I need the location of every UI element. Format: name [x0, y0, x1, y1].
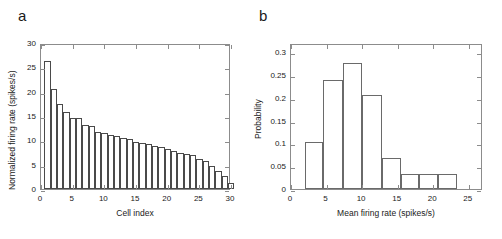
x-tick-label: 20 — [162, 195, 171, 203]
y-tick-mark — [291, 123, 295, 124]
x-tick-mark — [398, 45, 399, 49]
y-tick-mark — [477, 54, 481, 55]
x-tick-mark — [168, 45, 169, 49]
x-tick-label: 25 — [463, 195, 472, 203]
x-tick-mark — [199, 45, 200, 49]
y-tick-label: 15 — [16, 113, 36, 121]
y-tick-mark — [291, 191, 295, 192]
figure-container: a Normalized firing rate (spikes/s) Cell… — [0, 0, 502, 239]
y-tick-mark — [477, 168, 481, 169]
y-tick-mark — [41, 167, 45, 168]
x-tick-mark — [398, 185, 399, 189]
y-tick-label: 0 — [16, 186, 36, 194]
panel-a: a Normalized firing rate (spikes/s) Cell… — [0, 0, 251, 239]
x-tick-label: 30 — [226, 195, 235, 203]
y-tick-mark — [291, 145, 295, 146]
y-tick-mark — [41, 94, 45, 95]
x-tick-label: 15 — [392, 195, 401, 203]
y-tick-mark — [291, 100, 295, 101]
x-tick-mark — [291, 185, 292, 189]
panel-a-plot-area — [40, 44, 230, 190]
x-tick-mark — [168, 185, 169, 189]
y-tick-mark — [477, 123, 481, 124]
x-tick-label: 0 — [288, 195, 292, 203]
x-tick-label: 15 — [131, 195, 140, 203]
x-tick-mark — [104, 45, 105, 49]
x-tick-mark — [469, 45, 470, 49]
y-tick-mark — [291, 168, 295, 169]
x-tick-mark — [362, 45, 363, 49]
y-tick-mark — [225, 191, 229, 192]
x-tick-mark — [327, 185, 328, 189]
y-tick-mark — [477, 77, 481, 78]
x-tick-mark — [41, 185, 42, 189]
y-tick-mark — [477, 191, 481, 192]
y-tick-label: 0.25 — [262, 72, 286, 80]
y-tick-mark — [225, 118, 229, 119]
y-tick-mark — [225, 142, 229, 143]
panel-b: b Probability Mean firing rate (spikes/s… — [251, 0, 502, 239]
panel-b-plot-area — [290, 44, 482, 190]
y-tick-label: 0.1 — [262, 140, 286, 148]
y-tick-mark — [225, 167, 229, 168]
y-tick-mark — [41, 191, 45, 192]
x-tick-label: 5 — [323, 195, 327, 203]
y-tick-label: 30 — [16, 40, 36, 48]
x-tick-mark — [231, 185, 232, 189]
panel-a-ticks — [41, 45, 229, 189]
x-tick-mark — [136, 185, 137, 189]
y-tick-mark — [477, 145, 481, 146]
y-tick-mark — [291, 54, 295, 55]
x-tick-mark — [41, 45, 42, 49]
x-tick-mark — [291, 45, 292, 49]
x-tick-label: 0 — [38, 195, 42, 203]
panel-a-x-axis-title: Cell index — [40, 209, 230, 218]
x-tick-label: 25 — [194, 195, 203, 203]
x-tick-label: 10 — [99, 195, 108, 203]
y-tick-mark — [225, 69, 229, 70]
panel-b-ticks — [291, 45, 481, 189]
x-tick-mark — [362, 185, 363, 189]
x-tick-mark — [104, 185, 105, 189]
panel-a-label: a — [18, 8, 26, 23]
x-tick-mark — [136, 45, 137, 49]
y-tick-label: 0.2 — [262, 95, 286, 103]
x-tick-mark — [433, 185, 434, 189]
y-tick-mark — [41, 142, 45, 143]
y-tick-label: 20 — [16, 89, 36, 97]
y-tick-label: 10 — [16, 137, 36, 145]
x-tick-label: 10 — [357, 195, 366, 203]
y-tick-mark — [225, 94, 229, 95]
y-tick-mark — [41, 69, 45, 70]
x-tick-mark — [231, 45, 232, 49]
x-tick-mark — [73, 45, 74, 49]
y-tick-mark — [291, 77, 295, 78]
panel-b-label: b — [259, 8, 267, 23]
panel-b-x-axis-title: Mean firing rate (spikes/s) — [290, 209, 482, 218]
y-tick-mark — [225, 45, 229, 46]
x-tick-mark — [199, 185, 200, 189]
x-tick-mark — [469, 185, 470, 189]
y-tick-label: 0 — [262, 186, 286, 194]
x-tick-mark — [433, 45, 434, 49]
y-tick-mark — [41, 118, 45, 119]
y-tick-mark — [477, 100, 481, 101]
x-tick-label: 5 — [69, 195, 73, 203]
y-tick-label: 25 — [16, 64, 36, 72]
y-tick-label: 0.05 — [262, 163, 286, 171]
x-tick-mark — [73, 185, 74, 189]
y-tick-label: 5 — [16, 162, 36, 170]
y-tick-label: 0.3 — [262, 49, 286, 57]
x-tick-label: 20 — [428, 195, 437, 203]
y-tick-label: 0.15 — [262, 118, 286, 126]
x-tick-mark — [327, 45, 328, 49]
